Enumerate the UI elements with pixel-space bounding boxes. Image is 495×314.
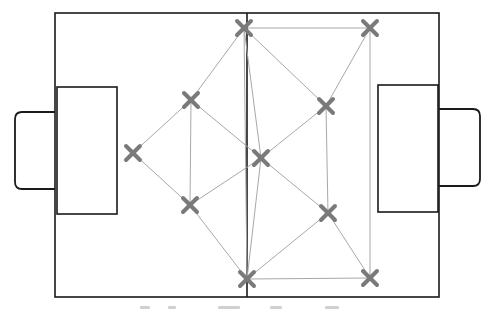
pass-line xyxy=(261,158,328,213)
clipped-caption-glyph xyxy=(325,306,339,309)
left-goal xyxy=(15,112,55,189)
pass-line xyxy=(247,278,370,279)
left-penalty-box xyxy=(57,87,117,214)
pass-line xyxy=(190,158,261,205)
pass-line xyxy=(244,28,326,106)
clipped-caption-glyph xyxy=(168,306,176,309)
pass-line xyxy=(261,106,326,158)
pass-line xyxy=(191,28,244,100)
right-penalty-box xyxy=(378,85,438,212)
pass-line xyxy=(326,106,328,213)
pass-line xyxy=(247,158,261,279)
pass-line xyxy=(328,213,370,278)
clipped-caption-glyph xyxy=(140,306,150,309)
right-goal xyxy=(439,109,480,186)
soccer-pitch-diagram xyxy=(0,0,495,314)
pass-network-edges xyxy=(133,28,370,279)
pass-line xyxy=(191,100,261,158)
player-markers xyxy=(126,21,377,286)
pass-line xyxy=(190,100,191,205)
player-x-marker-icon xyxy=(254,151,268,165)
pass-line xyxy=(190,205,247,279)
clipped-caption-glyph xyxy=(270,306,282,309)
player-x-marker-icon xyxy=(126,146,140,160)
pass-line xyxy=(326,28,370,106)
pass-line xyxy=(247,213,328,279)
clipped-caption xyxy=(140,306,360,314)
clipped-caption-glyph xyxy=(218,306,240,309)
